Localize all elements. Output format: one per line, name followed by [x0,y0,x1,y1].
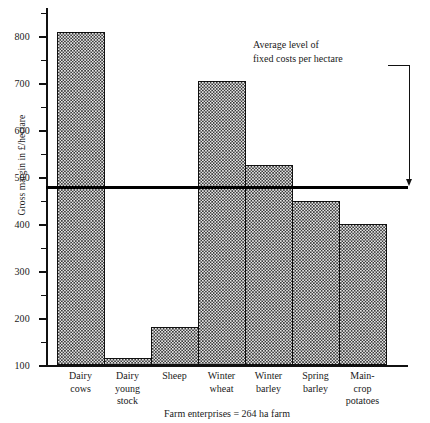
y-tick-100: 100 [39,365,47,367]
y-tick-label-600: 600 [14,125,30,136]
category-label-winter-barley: Winterbarley [245,370,292,395]
y-tick-500: 500 [39,177,47,179]
y-minor-tick-450 [41,201,47,203]
y-tick-800: 800 [39,36,47,38]
y-minor-tick-650 [41,107,47,109]
annotation-leader-horizontal [388,65,409,66]
y-minor-tick-250 [41,295,47,297]
category-label-sheep: Sheep [151,370,198,383]
x-axis-line [46,365,408,367]
y-tick-200: 200 [39,318,47,320]
plot-area: 100200300400500600700800 [46,8,408,367]
annotation-line-2: fixed costs per hectare [253,52,343,66]
bar-dairy-cows [57,32,105,366]
y-tick-label-200: 200 [14,313,30,324]
category-label-spring-barley: Springbarley [292,370,339,395]
y-tick-700: 700 [39,83,47,85]
y-minor-tick-750 [41,60,47,62]
y-tick-400: 400 [39,224,47,226]
y-tick-label-400: 400 [14,219,30,230]
y-tick-label-300: 300 [14,266,30,277]
bar-winter-barley [245,165,293,365]
gross-margin-bar-chart: Gross margin in £/hectare 10020030040050… [0,0,430,423]
y-tick-label-700: 700 [14,78,30,89]
y-minor-tick-150 [41,342,47,344]
y-minor-tick-850 [41,13,47,15]
annotation-leader-arrow-icon [406,179,412,186]
category-label-dairy-cows: Dairycows [57,370,104,395]
bar-spring-barley [292,201,340,365]
bar-sheep [151,327,199,365]
y-tick-label-500: 500 [14,172,30,183]
annotation-leader-vertical [409,65,410,180]
category-label-winter-wheat: Winterwheat [198,370,245,395]
category-label-dairy-young-stock: Dairyyoungstock [104,370,151,408]
y-tick-label-800: 800 [14,31,30,42]
y-tick-600: 600 [39,130,47,132]
y-tick-300: 300 [39,271,47,273]
category-label-main-crop-potatoes: Main-croppotatoes [339,370,386,408]
bar-dairy-young-stock [104,358,152,365]
annotation-line-1: Average level of [253,38,343,52]
bar-winter-wheat [198,81,246,365]
bar-main-crop-potatoes [339,224,387,365]
x-axis-title: Farm enterprises = 264 ha farm [0,408,430,419]
y-minor-tick-350 [41,248,47,250]
average-fixed-costs-reference-line [46,186,408,189]
y-tick-label-100: 100 [14,360,30,371]
y-minor-tick-550 [41,154,47,156]
reference-line-annotation: Average level offixed costs per hectare [253,38,343,65]
